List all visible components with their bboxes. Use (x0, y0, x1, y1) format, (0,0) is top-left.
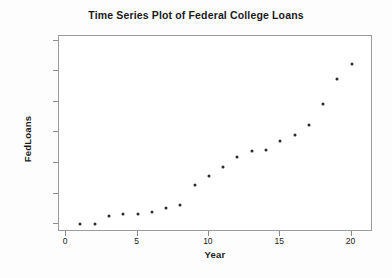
scatter-series (59, 36, 371, 230)
data-point (136, 213, 139, 216)
x-tick-mark (351, 231, 352, 236)
data-point (279, 140, 282, 143)
x-tick-mark (137, 231, 138, 236)
data-point (322, 102, 325, 105)
data-point (336, 78, 339, 81)
data-point (250, 150, 253, 153)
x-tick-label: 15 (259, 236, 299, 246)
data-point (93, 223, 96, 226)
x-tick-mark (208, 231, 209, 236)
data-point (179, 204, 182, 207)
data-point (107, 215, 110, 218)
x-tick-mark (65, 231, 66, 236)
y-axis-title: FedLoans (22, 116, 33, 162)
chart-title: Time Series Plot of Federal College Loan… (0, 9, 392, 21)
x-tick-label: 10 (188, 236, 228, 246)
x-tick-mark (279, 231, 280, 236)
data-point (350, 63, 353, 66)
x-tick-label: 20 (331, 236, 371, 246)
x-axis-title: Year (58, 249, 372, 260)
data-point (236, 155, 239, 158)
data-point (293, 134, 296, 137)
data-point (207, 174, 210, 177)
plot-area (58, 35, 372, 231)
x-tick-label: 0 (45, 236, 85, 246)
data-point (307, 123, 310, 126)
data-point (264, 148, 267, 151)
data-point (193, 184, 196, 187)
data-point (122, 213, 125, 216)
x-tick-label: 5 (117, 236, 157, 246)
data-point (222, 165, 225, 168)
data-point (150, 211, 153, 214)
data-point (79, 223, 82, 226)
chart-figure: Time Series Plot of Federal College Loan… (0, 0, 392, 278)
data-point (165, 207, 168, 210)
